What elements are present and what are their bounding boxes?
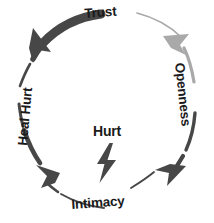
center-node: Hurt — [0, 124, 214, 183]
node-label-trust: Trust — [84, 5, 117, 21]
trust-cycle-diagram: Trust Openness Intimacy Heal Hurt Hurt — [0, 0, 214, 223]
arrow-heal-hurt-to-trust — [20, 14, 101, 86]
center-label-hurt: Hurt — [0, 124, 214, 138]
lightning-bolt-icon — [0, 143, 214, 183]
